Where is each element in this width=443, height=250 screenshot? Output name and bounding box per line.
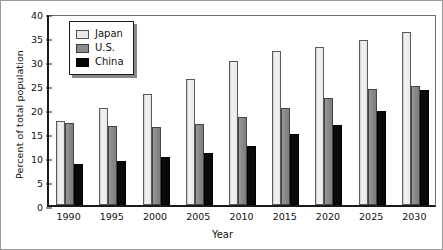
y-tick-5: 5	[19, 179, 43, 189]
bar-japan-2015	[272, 51, 281, 205]
bar-japan-2025	[359, 40, 368, 205]
x-tick-2020: 2020	[316, 211, 340, 222]
legend-label-china: China	[95, 57, 124, 67]
bar-group-2020	[315, 47, 344, 205]
y-tick-10: 10	[19, 155, 43, 165]
bar-us-1990	[65, 123, 74, 205]
bar-china-2030	[420, 90, 429, 205]
bar-china-1995	[117, 161, 126, 205]
bar-japan-1990	[56, 121, 65, 205]
x-tick-1990: 1990	[57, 211, 81, 222]
bar-us-2015	[281, 108, 290, 205]
x-axis-label: Year	[1, 229, 443, 240]
bar-group-2015	[272, 51, 301, 205]
bar-japan-2020	[315, 47, 324, 205]
bar-chart-figure: Percent of total population Year 0510152…	[0, 0, 443, 250]
bar-us-2010	[238, 117, 247, 205]
bar-group-2010	[229, 61, 258, 205]
x-tick-2010: 2010	[229, 211, 253, 222]
bar-us-1995	[108, 126, 117, 205]
bar-group-2025	[359, 40, 388, 205]
bar-china-2025	[377, 111, 386, 205]
y-tick-35: 35	[19, 35, 43, 45]
legend-swatch-china	[76, 58, 89, 67]
x-tick-2005: 2005	[186, 211, 210, 222]
chart-legend: Japan U.S. China	[69, 21, 134, 75]
x-tick-2025: 2025	[359, 211, 383, 222]
y-tick-mark	[46, 207, 52, 209]
y-tick-25: 25	[19, 83, 43, 93]
bar-japan-2030	[402, 32, 411, 205]
bar-group-2005	[186, 79, 215, 205]
legend-label-us: U.S.	[95, 43, 115, 53]
x-tick-2030: 2030	[402, 211, 426, 222]
bar-us-2025	[368, 89, 377, 205]
bar-japan-2010	[229, 61, 238, 205]
bar-china-2005	[204, 153, 213, 205]
legend-swatch-us	[76, 44, 89, 53]
bar-china-2010	[247, 146, 256, 205]
bar-us-2005	[195, 124, 204, 205]
bar-group-1990	[56, 121, 85, 205]
bar-group-2000	[143, 94, 172, 205]
bar-china-2000	[161, 157, 170, 205]
bar-group-2030	[402, 32, 431, 205]
bar-us-2030	[411, 86, 420, 205]
legend-swatch-japan	[76, 30, 89, 39]
bar-us-2020	[324, 98, 333, 205]
bar-china-2015	[290, 134, 299, 205]
legend-item-japan: Japan	[76, 27, 124, 41]
bar-china-2020	[333, 125, 342, 205]
bar-us-2000	[152, 127, 161, 205]
y-tick-40: 40	[19, 11, 43, 21]
x-tick-2015: 2015	[273, 211, 297, 222]
legend-label-japan: Japan	[95, 29, 123, 39]
y-tick-20: 20	[19, 107, 43, 117]
y-tick-15: 15	[19, 131, 43, 141]
bar-china-1990	[74, 164, 83, 205]
bar-japan-2005	[186, 79, 195, 205]
bar-japan-2000	[143, 94, 152, 205]
y-tick-30: 30	[19, 59, 43, 69]
bar-group-1995	[99, 108, 128, 205]
x-tick-2000: 2000	[143, 211, 167, 222]
x-tick-1995: 1995	[100, 211, 124, 222]
y-tick-0: 0	[19, 203, 43, 213]
bar-japan-1995	[99, 108, 108, 205]
legend-item-us: U.S.	[76, 41, 124, 55]
legend-item-china: China	[76, 55, 124, 69]
